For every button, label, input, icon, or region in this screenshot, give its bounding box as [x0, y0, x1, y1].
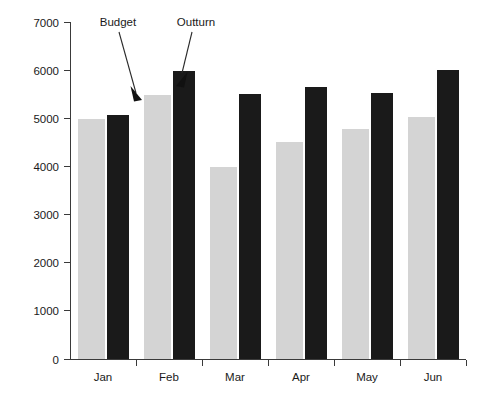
bar-chart: 7000 6000 5000 4000 3000 2000 1000 0: [0, 0, 477, 399]
y-tick-label-7000: 7000: [33, 17, 59, 29]
bar-budget-feb: [144, 95, 171, 359]
bar-budget-may: [342, 129, 369, 359]
x-tick-label-apr: Apr: [292, 371, 310, 383]
bar-outturn-jan: [107, 115, 129, 359]
x-tick-label-may: May: [356, 371, 378, 383]
y-tick-label-5000: 5000: [33, 113, 59, 125]
annotation-outturn-label: Outturn: [177, 16, 215, 28]
bar-outturn-may: [371, 93, 393, 359]
x-tick-label-feb: Feb: [159, 371, 179, 383]
x-tick-label-jan: Jan: [94, 371, 113, 383]
y-tick-label-4000: 4000: [33, 161, 59, 173]
bar-budget-apr: [276, 142, 303, 359]
annotation-budget-label: Budget: [100, 16, 137, 28]
bar-group-jan: [78, 115, 129, 359]
bar-group-feb: [144, 71, 195, 359]
bar-outturn-apr: [305, 87, 327, 359]
y-tick-label-1000: 1000: [33, 305, 59, 317]
y-tick-label-2000: 2000: [33, 257, 59, 269]
bar-outturn-mar: [239, 94, 261, 359]
bar-budget-mar: [210, 167, 237, 359]
x-tick-label-jun: Jun: [424, 371, 443, 383]
bar-group-may: [342, 93, 393, 359]
bar-budget-jan: [78, 119, 105, 359]
x-tick-label-mar: Mar: [225, 371, 245, 383]
chart-background: [0, 0, 477, 399]
bar-outturn-feb: [173, 71, 195, 359]
y-tick-label-0: 0: [53, 354, 59, 366]
chart-container: 7000 6000 5000 4000 3000 2000 1000 0: [0, 0, 477, 399]
bar-budget-jun: [408, 117, 435, 359]
y-tick-label-6000: 6000: [33, 65, 59, 77]
y-tick-label-3000: 3000: [33, 209, 59, 221]
bar-outturn-jun: [437, 70, 459, 359]
